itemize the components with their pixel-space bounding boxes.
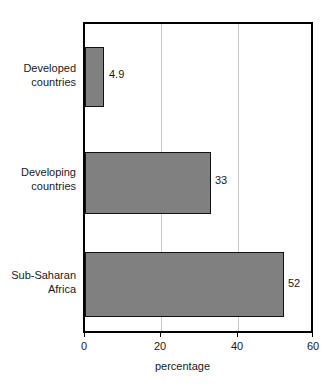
value-label-sub-saharan-africa: 52 xyxy=(288,278,300,289)
tick-mark-20 xyxy=(160,333,161,337)
value-label-developed-countries: 4.9 xyxy=(109,69,124,80)
tick-mark-60 xyxy=(312,333,313,337)
category-label-sub-saharan-africa: Sub-Saharan Africa xyxy=(0,269,76,296)
tick-mark-40 xyxy=(237,333,238,337)
category-label-developed-countries: Developed countries xyxy=(0,62,76,89)
tick-label-0: 0 xyxy=(69,340,99,352)
tick-label-60: 60 xyxy=(298,340,328,352)
value-label-developing-countries: 33 xyxy=(215,175,227,186)
bar-developed-countries[interactable] xyxy=(85,47,104,107)
bar-developing-countries[interactable] xyxy=(85,152,211,214)
bar-sub-saharan-africa[interactable] xyxy=(85,252,284,317)
tick-mark-0 xyxy=(84,333,85,337)
tick-label-20: 20 xyxy=(145,340,175,352)
x-axis-label: percentage xyxy=(155,360,210,372)
bar-chart: 4.9 33 52 Developed countries Developing… xyxy=(0,0,335,385)
tick-label-40: 40 xyxy=(222,340,252,352)
category-label-developing-countries: Developing countries xyxy=(0,166,76,193)
x-axis-label-wrap: percentage xyxy=(0,360,335,372)
